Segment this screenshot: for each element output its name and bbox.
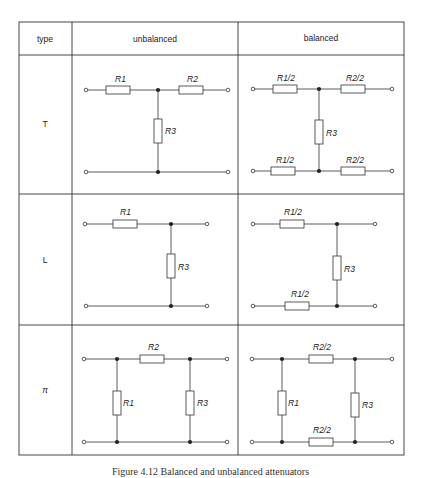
row-type-t: T bbox=[42, 119, 47, 129]
t-balanced-circuit bbox=[251, 85, 394, 175]
header-balanced: balanced bbox=[304, 33, 339, 43]
pi-unbal-r2-label: R2 bbox=[148, 342, 159, 352]
l-balanced-circuit bbox=[251, 220, 377, 310]
l-bal-shunt-label: R3 bbox=[344, 264, 355, 274]
t-unbal-r2-label: R2 bbox=[187, 74, 198, 84]
pi-bal-bottom-label: R2/2 bbox=[313, 425, 331, 435]
t-bal-bottom-left-label: R1/2 bbox=[276, 155, 294, 165]
row-type-pi: π bbox=[42, 385, 48, 395]
t-bal-top-right-label: R2/2 bbox=[346, 73, 364, 83]
t-bal-bottom-right-label: R2/2 bbox=[346, 155, 364, 165]
t-bal-top-left-label: R1/2 bbox=[277, 73, 295, 83]
t-unbal-r1-label: R1 bbox=[115, 74, 126, 84]
pi-unbal-r1-label: R1 bbox=[123, 398, 134, 408]
t-unbal-r3-label: R3 bbox=[165, 126, 176, 136]
header-unbalanced: unbalanced bbox=[133, 34, 177, 44]
l-unbal-r3-label: R3 bbox=[178, 262, 189, 272]
t-unbalanced-circuit bbox=[84, 86, 230, 174]
pi-bal-top-label: R2/2 bbox=[313, 342, 331, 352]
pi-bal-r1-label: R1 bbox=[288, 398, 299, 408]
attenuator-table-figure: type unbalanced balanced T L π R1 R2 R3 bbox=[0, 0, 421, 478]
t-bal-shunt-label: R3 bbox=[326, 128, 337, 138]
pi-bal-r3-label: R3 bbox=[362, 400, 373, 410]
header-type: type bbox=[37, 34, 53, 44]
l-unbalanced-circuit bbox=[83, 220, 209, 308]
figure-caption: Figure 4.12 Balanced and unbalanced atte… bbox=[0, 466, 421, 477]
pi-unbal-r3-label: R3 bbox=[197, 398, 208, 408]
l-bal-top-label: R1/2 bbox=[284, 207, 302, 217]
row-type-l: L bbox=[43, 255, 48, 265]
l-bal-bottom-label: R1/2 bbox=[291, 289, 309, 299]
l-unbal-r1-label: R1 bbox=[120, 207, 131, 217]
